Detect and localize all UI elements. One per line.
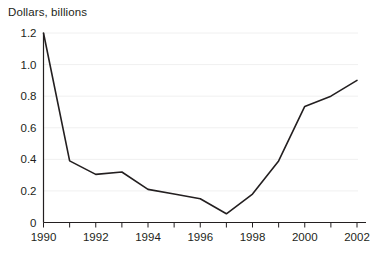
y-axis-tick-label: 0.6 — [21, 122, 37, 134]
y-axis-tick-label: 0.2 — [21, 185, 37, 197]
data-series-line — [44, 33, 358, 214]
x-axis-tick-label: 1992 — [83, 231, 109, 243]
x-axis-tick-label: 1998 — [240, 231, 266, 243]
x-axis-tick-label: 1994 — [135, 231, 161, 243]
x-axis-tick-label: 1996 — [187, 231, 213, 243]
y-axis-tick-label: 0 — [30, 217, 36, 229]
x-axis-tick-label: 2000 — [292, 231, 318, 243]
y-axis-tick-label: 0.4 — [21, 153, 38, 165]
gridlines — [44, 33, 359, 191]
y-axis-tick-label: 1.2 — [21, 27, 37, 39]
x-axis-tick-marks — [44, 223, 358, 228]
line-chart: Dollars, billions 00.20.40.60.81.01.2 19… — [0, 0, 383, 263]
x-axis-tick-label: 1990 — [31, 231, 57, 243]
x-axis-tick-label: 2002 — [344, 231, 370, 243]
y-axis-tick-label: 1.0 — [21, 59, 37, 71]
x-axis-tick-labels: 1990199219941996199820002002 — [31, 231, 370, 243]
y-axis-tick-label: 0.8 — [21, 90, 37, 102]
y-axis-tick-labels: 00.20.40.60.81.01.2 — [21, 27, 38, 229]
plot-area: 00.20.40.60.81.01.2 19901992199419961998… — [0, 0, 383, 263]
